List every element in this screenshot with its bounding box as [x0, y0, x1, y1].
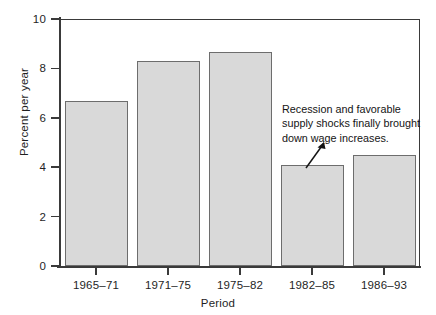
- annotation-text: Recession and favorable supply shocks fi…: [282, 102, 422, 145]
- y-axis-line: [59, 17, 61, 268]
- y-tick-label: 0: [39, 260, 46, 272]
- annotation-line-1: Recession and favorable: [282, 102, 422, 116]
- y-tick: 4: [51, 166, 60, 168]
- x-tick-label: 1965–71: [73, 279, 119, 291]
- y-tick: 2: [51, 216, 60, 218]
- annotation-line-2: supply shocks finally brought: [282, 116, 422, 130]
- bar: [137, 61, 200, 266]
- y-tick: 10: [51, 18, 60, 20]
- bar-chart-figure: 0246810 1965–711971–751975–821982–851986…: [0, 0, 436, 315]
- annotation-arrow-icon: [300, 142, 330, 170]
- x-tick: [311, 267, 313, 275]
- x-tick: [95, 267, 97, 275]
- bar: [281, 165, 344, 266]
- y-tick-label: 4: [39, 161, 46, 173]
- x-tick: [167, 267, 169, 275]
- x-tick-label: 1982–85: [289, 279, 335, 291]
- bar: [65, 101, 128, 266]
- bar: [209, 52, 272, 266]
- y-tick: 0: [51, 265, 60, 267]
- x-tick: [239, 267, 241, 275]
- y-tick: 8: [51, 68, 60, 70]
- y-tick-label: 8: [39, 62, 46, 74]
- x-tick-label: 1986–93: [361, 279, 407, 291]
- bar: [353, 155, 416, 266]
- y-tick-label: 2: [39, 210, 46, 222]
- y-axis-title: Percent per year: [18, 57, 30, 167]
- y-tick-label: 10: [33, 13, 46, 25]
- y-tick: 6: [51, 117, 60, 119]
- y-tick-label: 6: [39, 112, 46, 124]
- x-axis-title: Period: [0, 297, 436, 309]
- x-tick: [383, 267, 385, 275]
- x-tick-label: 1971–75: [145, 279, 191, 291]
- x-tick-label: 1975–82: [217, 279, 263, 291]
